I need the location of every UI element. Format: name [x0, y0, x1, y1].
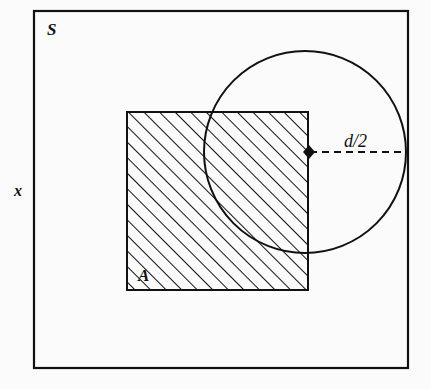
region-a-label: A — [137, 266, 149, 285]
geometry-diagram: S A d/2 x — [0, 0, 431, 389]
sample-space-label: S — [47, 20, 56, 39]
diagram-canvas: S A d/2 x — [0, 0, 431, 389]
radius-label: d/2 — [344, 131, 367, 151]
axis-x-label: x — [13, 182, 22, 199]
